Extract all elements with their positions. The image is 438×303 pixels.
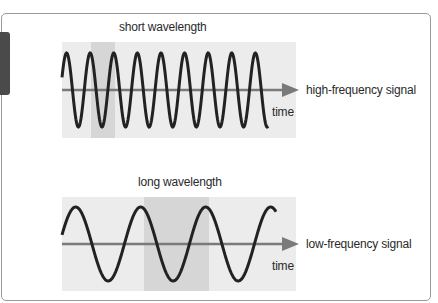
waveform-diagram <box>0 0 438 303</box>
bottom-panel <box>62 197 299 291</box>
bottom-axis-label: time <box>272 259 294 273</box>
top-panel <box>62 42 299 138</box>
top-panel-title: short wavelength <box>119 20 207 34</box>
bottom-signal-label: low-frequency signal <box>306 237 411 251</box>
bottom-panel-title: long wavelength <box>138 175 222 189</box>
top-signal-label: high-frequency signal <box>306 83 416 97</box>
top-axis-label: time <box>272 105 294 119</box>
